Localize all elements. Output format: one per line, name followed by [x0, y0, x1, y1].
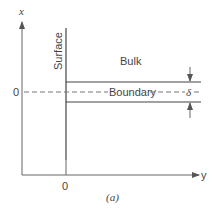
- horizontal-origin-label: 0: [62, 180, 68, 192]
- boundary-label: Boundary: [109, 86, 157, 98]
- boundary-layer-diagram: x y 0 0 Surface Bulk Boundary δ (a): [0, 0, 216, 212]
- figure-caption: (a): [106, 191, 119, 204]
- thickness-label: δ: [186, 86, 192, 98]
- bulk-label: Bulk: [120, 55, 142, 67]
- vertical-axis-label: x: [18, 5, 24, 17]
- vertical-origin-label: 0: [13, 86, 19, 98]
- surface-label: Surface: [52, 32, 64, 70]
- horizontal-axis-label: y: [201, 169, 207, 181]
